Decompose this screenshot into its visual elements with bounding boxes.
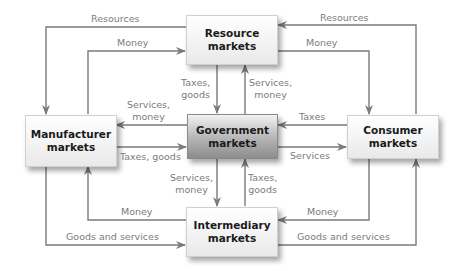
intermediary-label-2: markets [208,232,256,244]
flow-label-money-right-top: Money [306,37,338,49]
flow-label-goods-left: Goods and services [66,231,159,243]
resource-label-1: Resource [205,27,260,39]
consumer-label-1: Consumer [363,124,422,136]
flow-label-resources-left: Resources [91,13,140,25]
manufacturer-label-1: Manufacturer [31,128,111,140]
flow-label-services-right: Services [290,150,330,162]
flow-label-money-right-bottom: Money [307,206,339,218]
consumer-markets-node: Consumermarkets [347,115,439,159]
flow-label-goods-right: Goods and services [297,231,390,243]
consumer-label-2: markets [369,137,417,149]
flow-label-money-left-top: Money [117,37,149,49]
intermediary-label-1: Intermediary [194,219,271,231]
intermediary-markets-node: Intermediarymarkets [186,207,278,257]
resource-markets-node: Resourcemarkets [186,15,278,65]
flow-label-taxes-goods-top: Taxes,goods [181,77,210,101]
flow-label-services-money-top: Services,money [249,77,292,101]
government-markets-node: Governmentmarkets [187,114,278,159]
flow-label-taxes-goods-bottom: Taxes,goods [248,172,277,196]
resource-label-2: markets [208,40,256,52]
manufacturer-markets-node: Manufacturermarkets [25,115,117,167]
flow-label-money-left-bottom: Money [121,206,153,218]
flow-label-taxes-goods-left: Taxes, goods [120,151,181,163]
government-label-2: markets [208,137,256,149]
flow-label-taxes-right: Taxes [299,111,325,123]
manufacturer-label-2: markets [47,141,95,153]
flow-label-resources-right: Resources [320,12,369,24]
government-label-1: Government [196,124,269,136]
flow-label-services-money-left: Services,money [127,99,170,123]
arrow-resources-to-resource [278,25,416,114]
flow-label-services-money-bottom: Services,money [170,172,213,196]
